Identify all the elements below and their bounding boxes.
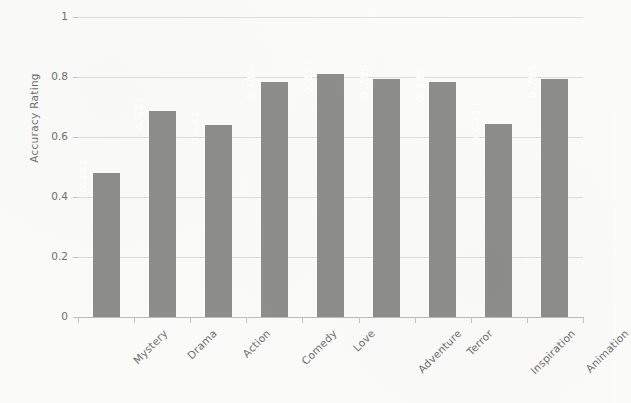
x-tick-mark [359,317,360,323]
x-axis-category-label: Action [240,327,273,360]
y-tick-label: 0.4 [28,190,68,202]
bar-value-label: 0.785 [245,61,257,130]
x-tick-mark [415,317,416,323]
bar[interactable]: 0.687 [149,111,176,317]
bar[interactable]: 0.795 [373,79,400,318]
y-tick-label: 0.8 [28,70,68,82]
y-tick-label: 1 [28,10,68,22]
x-axis-category-label: Love [350,327,377,354]
bar[interactable]: 0.811 [317,74,344,317]
x-axis-category-label: Drama [185,327,219,361]
gridline [78,17,583,18]
x-axis-category-label: Animation [583,327,631,375]
y-axis-title: Accuracy Rating [28,48,40,188]
bar[interactable]: 0.785 [261,82,288,318]
x-tick-mark [246,317,247,323]
bar-value-label: 0.795 [358,58,370,127]
x-axis-category-label: Mystery [131,327,170,366]
x-tick-mark [583,317,584,323]
x-axis-category-label: Terror [464,327,495,358]
bar-value-label: 0.811 [302,53,314,122]
x-tick-mark [471,317,472,323]
x-tick-mark [527,317,528,323]
bar[interactable]: 0.481 [93,173,120,317]
x-tick-mark [134,317,135,323]
bar[interactable]: 0.795 [541,79,568,318]
x-tick-mark [302,317,303,323]
x-axis-category-label: Comedy [299,327,339,367]
plot-area: 0.4810.6870.6410.7850.8110.7950.7850.643… [78,17,583,317]
x-axis-category-label: Inspiration [528,327,577,376]
x-tick-mark [78,317,79,323]
bar-value-label: 0.785 [414,61,426,130]
y-tick-label: 0.2 [28,250,68,262]
bar-value-label: 0.641 [189,104,201,173]
bar[interactable]: 0.643 [485,124,512,317]
bar-value-label: 0.687 [133,90,145,159]
y-tick-label: 0.6 [28,130,68,142]
bar-value-label: 0.643 [470,104,482,173]
x-tick-mark [190,317,191,323]
bar-value-label: 0.795 [526,58,538,127]
x-axis-baseline [78,317,583,318]
y-tick-label: 0 [28,310,68,322]
x-axis-category-label: Adventure [415,327,463,375]
bar-value-label: 0.481 [77,152,89,221]
bar[interactable]: 0.785 [429,82,456,318]
bar[interactable]: 0.641 [205,125,232,317]
